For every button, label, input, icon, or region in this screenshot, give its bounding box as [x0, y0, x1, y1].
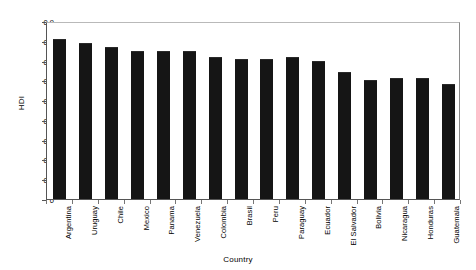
x-axis-tick-mark: [357, 200, 358, 204]
plot-area: [46, 22, 460, 200]
bar: [183, 51, 196, 199]
bar: [53, 39, 66, 199]
x-axis-title: Country: [0, 255, 476, 264]
bar: [338, 72, 351, 199]
bar: [235, 59, 248, 199]
x-axis-tick-mark: [175, 200, 176, 204]
bar: [312, 61, 325, 199]
x-axis-tick-mark: [460, 200, 461, 204]
x-axis-tick-mark: [201, 200, 202, 204]
bar: [416, 78, 429, 199]
bar: [286, 57, 299, 199]
x-axis-tick-mark: [124, 200, 125, 204]
x-axis-tick-mark: [279, 200, 280, 204]
bar: [364, 80, 377, 199]
x-axis-tick-mark: [150, 200, 151, 204]
x-axis-tick-mark: [98, 200, 99, 204]
bar: [209, 57, 222, 199]
x-axis-tick-mark: [253, 200, 254, 204]
x-axis-tick-mark: [408, 200, 409, 204]
bar: [260, 59, 273, 199]
x-axis-tick-mark: [382, 200, 383, 204]
bar: [105, 47, 118, 199]
bar: [131, 51, 144, 199]
bar: [442, 84, 455, 199]
x-axis-tick-mark: [72, 200, 73, 204]
hdi-by-country-bar-chart: HDI 00.10.20.30.40.50.60.70.80.9 Argenti…: [0, 0, 476, 270]
x-axis-tick-mark: [305, 200, 306, 204]
bar: [79, 43, 92, 199]
y-axis-title: HDI: [15, 83, 29, 123]
x-axis-tick-mark: [227, 200, 228, 204]
x-axis-tick-mark: [331, 200, 332, 204]
bars-layer: [47, 23, 459, 199]
bar: [390, 78, 403, 199]
x-axis-tick-mark: [434, 200, 435, 204]
x-axis-tick-mark: [46, 200, 47, 204]
bar: [157, 51, 170, 199]
